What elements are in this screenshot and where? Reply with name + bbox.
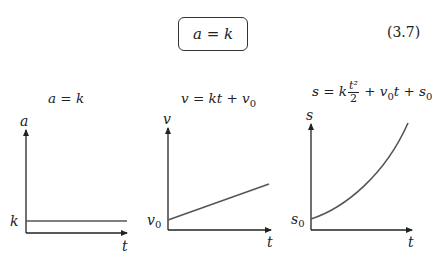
y-axis-label: s — [306, 107, 313, 123]
y-axis-label: v — [163, 111, 171, 127]
intercept-label: k — [10, 213, 18, 229]
x-axis-label: t — [408, 234, 414, 250]
graph-acceleration: a t k — [10, 113, 128, 254]
intercept-label: s0 — [291, 211, 305, 229]
quadratic-curve — [311, 123, 408, 219]
x-axis-label: t — [122, 238, 128, 254]
y-axis-label: a — [20, 113, 28, 129]
graph-velocity: v t v0 — [147, 111, 273, 250]
x-axis-label: t — [267, 234, 273, 250]
graph-position: s t s0 — [291, 107, 414, 250]
linear-line — [168, 184, 269, 220]
intercept-label: v0 — [147, 212, 161, 230]
